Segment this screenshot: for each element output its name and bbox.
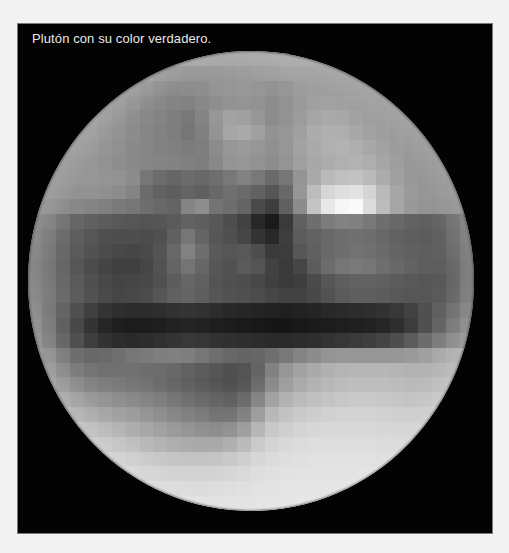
surface-pixel <box>321 363 335 378</box>
surface-pixel <box>42 155 56 170</box>
surface-pixel <box>140 481 154 496</box>
surface-pixel <box>390 407 404 422</box>
surface-pixel <box>84 392 98 407</box>
surface-pixel <box>70 96 84 111</box>
surface-pixel <box>42 333 56 348</box>
surface-pixel <box>98 96 112 111</box>
surface-pixel <box>181 96 195 111</box>
surface-pixel <box>293 244 307 259</box>
surface-pixel <box>251 422 265 437</box>
surface-pixel <box>251 214 265 229</box>
surface-pixel <box>335 259 349 274</box>
surface-pixel <box>460 214 474 229</box>
surface-pixel <box>153 51 167 66</box>
surface-pixel <box>432 199 446 214</box>
surface-pixel <box>307 214 321 229</box>
surface-pixel <box>446 348 460 363</box>
surface-pixel <box>265 229 279 244</box>
surface-pixel <box>126 318 140 333</box>
surface-pixel <box>42 392 56 407</box>
surface-pixel <box>251 185 265 200</box>
surface-pixel <box>28 96 42 111</box>
surface-pixel <box>404 244 418 259</box>
surface-pixel <box>404 110 418 125</box>
surface-pixel <box>70 259 84 274</box>
surface-pixel <box>195 244 209 259</box>
surface-pixel <box>446 288 460 303</box>
surface-pixel <box>70 274 84 289</box>
surface-pixel <box>390 481 404 496</box>
surface-pixel <box>265 333 279 348</box>
surface-pixel <box>335 125 349 140</box>
surface-pixel <box>237 229 251 244</box>
surface-pixel <box>140 377 154 392</box>
surface-pixel <box>265 81 279 96</box>
surface-pixel <box>460 407 474 422</box>
surface-pixel <box>307 288 321 303</box>
surface-pixel <box>70 466 84 481</box>
surface-pixel <box>293 348 307 363</box>
surface-pixel <box>223 140 237 155</box>
surface-pixel <box>84 66 98 81</box>
surface-pixel <box>279 496 293 511</box>
surface-pixel <box>390 333 404 348</box>
surface-pixel <box>167 125 181 140</box>
surface-pixel <box>84 96 98 111</box>
surface-pixel <box>363 96 377 111</box>
surface-pixel <box>209 466 223 481</box>
surface-pixel <box>98 363 112 378</box>
surface-pixel <box>335 363 349 378</box>
surface-pixel <box>237 125 251 140</box>
surface-pixel <box>349 185 363 200</box>
surface-pixel <box>167 466 181 481</box>
surface-pixel <box>418 422 432 437</box>
surface-pixel <box>56 140 70 155</box>
surface-pixel <box>153 407 167 422</box>
surface-pixel <box>335 303 349 318</box>
surface-pixel <box>237 259 251 274</box>
surface-pixel <box>279 170 293 185</box>
surface-pixel <box>126 466 140 481</box>
surface-pixel <box>335 244 349 259</box>
surface-pixel <box>70 51 84 66</box>
surface-pixel <box>84 125 98 140</box>
surface-pixel <box>265 496 279 511</box>
surface-pixel <box>321 244 335 259</box>
surface-pixel <box>432 437 446 452</box>
surface-pixel <box>28 392 42 407</box>
surface-pixel <box>460 170 474 185</box>
surface-pixel <box>84 155 98 170</box>
surface-pixel <box>446 303 460 318</box>
surface-pixel <box>307 481 321 496</box>
surface-pixel <box>209 170 223 185</box>
surface-pixel <box>432 229 446 244</box>
surface-pixel <box>418 155 432 170</box>
surface-pixel <box>363 407 377 422</box>
surface-pixel <box>42 363 56 378</box>
surface-pixel <box>418 96 432 111</box>
surface-pixel <box>307 66 321 81</box>
surface-pixel <box>293 422 307 437</box>
surface-pixel <box>251 466 265 481</box>
surface-pixel <box>223 214 237 229</box>
surface-pixel <box>321 466 335 481</box>
surface-pixel <box>140 170 154 185</box>
surface-pixel <box>181 214 195 229</box>
surface-pixel <box>432 140 446 155</box>
surface-pixel <box>376 318 390 333</box>
surface-pixel <box>140 437 154 452</box>
surface-pixel <box>70 496 84 511</box>
surface-pixel <box>56 363 70 378</box>
surface-pixel <box>56 318 70 333</box>
surface-pixel <box>126 303 140 318</box>
surface-pixel <box>237 466 251 481</box>
surface-pixel <box>432 110 446 125</box>
surface-pixel <box>126 214 140 229</box>
surface-pixel <box>209 140 223 155</box>
surface-pixel <box>390 259 404 274</box>
surface-pixel <box>349 244 363 259</box>
surface-pixel <box>153 244 167 259</box>
surface-pixel <box>28 125 42 140</box>
surface-pixel <box>28 155 42 170</box>
surface-pixel <box>335 318 349 333</box>
